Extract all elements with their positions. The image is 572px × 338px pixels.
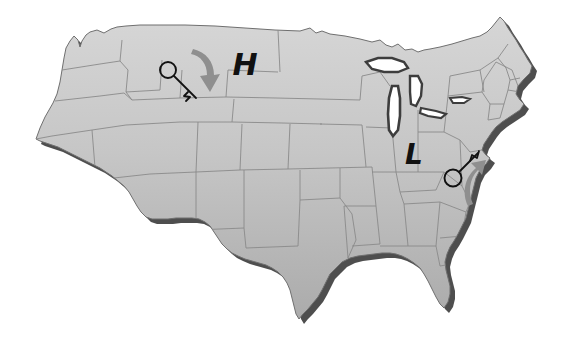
low-pressure-label: L	[405, 138, 423, 171]
weather-map-canvas: H L	[0, 0, 572, 338]
us-weather-map: H L	[0, 0, 572, 338]
high-pressure-label: H	[232, 47, 257, 82]
